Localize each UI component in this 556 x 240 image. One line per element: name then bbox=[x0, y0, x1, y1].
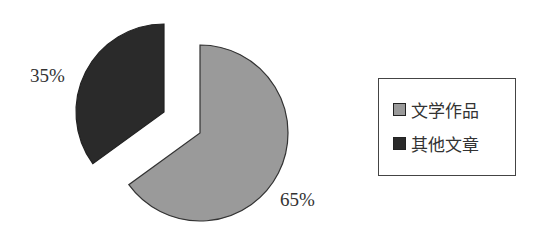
legend-item-literary-works: 文学作品 bbox=[393, 97, 479, 122]
label-35-percent: 35% bbox=[30, 65, 65, 86]
legend-label: 文学作品 bbox=[411, 97, 479, 122]
label-65-percent: 65% bbox=[280, 189, 315, 210]
legend-swatch-gray bbox=[393, 103, 406, 116]
legend-item-other-articles: 其他文章 bbox=[393, 131, 479, 156]
pie-slice-other-articles bbox=[76, 24, 164, 164]
legend: 文学作品 其他文章 bbox=[378, 78, 516, 176]
legend-label: 其他文章 bbox=[411, 131, 479, 156]
legend-swatch-dark bbox=[393, 137, 406, 150]
